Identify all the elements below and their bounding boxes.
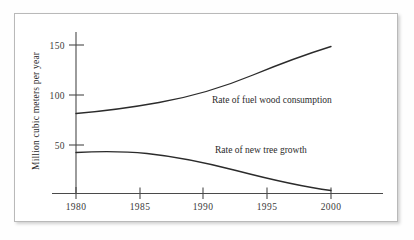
figure-frame [14,13,398,222]
page-canvas: 150 100 50 1980 1985 1990 1995 2000 Mill… [0,0,414,240]
